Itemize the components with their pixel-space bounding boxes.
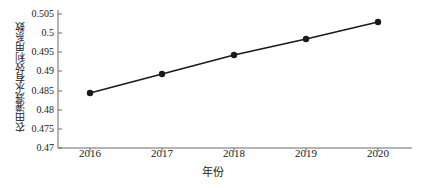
x-axis-tick-label: 2017 xyxy=(151,148,173,159)
data-point xyxy=(159,71,165,77)
data-point xyxy=(375,19,381,25)
data-point xyxy=(87,90,93,96)
x-axis-tick-label: 2018 xyxy=(223,148,245,159)
y-axis-ticks xyxy=(58,14,62,148)
data-point xyxy=(303,36,309,42)
x-axis-tick-label: 2020 xyxy=(367,148,389,159)
plot-area xyxy=(0,0,425,188)
x-axis-tick-label: 2016 xyxy=(79,148,101,159)
data-points xyxy=(87,19,381,96)
x-axis-tick-label: 2019 xyxy=(295,148,317,159)
x-axis-title: 年份 xyxy=(0,163,425,179)
line-chart: 农田灌溉水有效利用系数 0.505 0.5 0.495 0.49 0.485 0… xyxy=(0,0,425,188)
data-point xyxy=(231,52,237,58)
